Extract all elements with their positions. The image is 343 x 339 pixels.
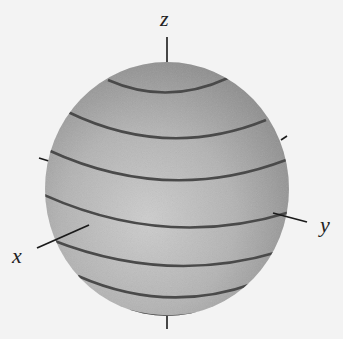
sphere-figure: z x y — [0, 0, 343, 339]
x-axis-label: x — [11, 243, 22, 268]
sphere-diagram: z x y — [0, 0, 343, 339]
y-axis-back — [281, 136, 287, 140]
y-axis-label: y — [318, 212, 330, 237]
z-axis-label: z — [159, 6, 169, 31]
sphere — [44, 62, 290, 317]
